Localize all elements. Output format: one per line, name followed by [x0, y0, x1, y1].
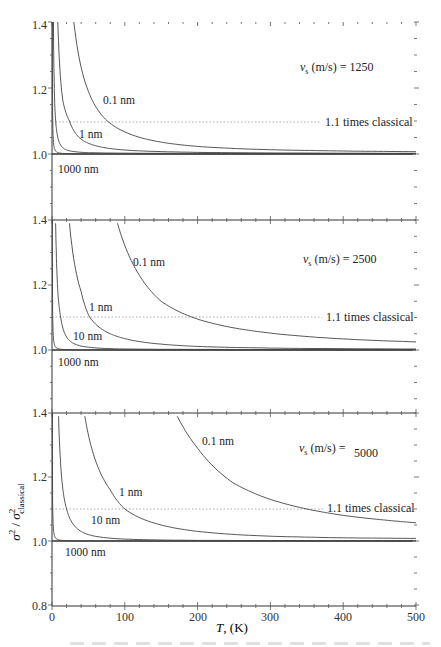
reference-label: 1.1 times classical: [327, 501, 415, 515]
velocity-annotation: vs (m/s) = 2500: [303, 252, 377, 268]
curve-label: 1000 nm: [65, 546, 106, 558]
x-tick-label: 0: [49, 610, 55, 624]
curve-01nm: [118, 223, 417, 342]
curve-label: 10 nm: [91, 514, 120, 526]
x-axis-label: T, (K): [216, 620, 248, 635]
curve-label: 1 nm: [119, 486, 142, 498]
y-tick-labels: 1.4 1.2 1.0 1.4 1.2 1.0 1.4 1.2 1.0 0.8: [32, 18, 47, 613]
x-tick-label: 200: [189, 610, 207, 624]
y-tick-label: 1.0: [32, 535, 47, 549]
y-tick-label: 1.2: [32, 470, 47, 484]
curve-label: 1 nm: [79, 128, 102, 140]
curve-label: 1000 nm: [58, 356, 99, 368]
x-tick-label: 300: [261, 610, 279, 624]
y-tick-label: 1.4: [32, 18, 47, 32]
curve-labels: 0.1 nm 1 nm 1000 nm 0.1 nm 1 nm 10 nm 10…: [58, 94, 234, 558]
curve-1000nm: [52, 22, 416, 154]
velocity-annotation: vs (m/s) =: [299, 441, 346, 457]
chart: 1.4 1.2 1.0 1.4 1.2 1.0 1.4 1.2 1.0 0.8 …: [0, 0, 441, 647]
curve-10nm: [56, 223, 416, 349]
curve-label: 0.1 nm: [133, 256, 165, 268]
y-tick-label: 1.4: [32, 406, 47, 420]
curve-1nm: [58, 22, 416, 153]
velocity-annotation: vs (m/s) = 1250: [300, 60, 374, 76]
y-tick-label: 1.2: [32, 83, 47, 97]
curve-1000nm: [52, 220, 416, 350]
reference-label: 1.1 times classical: [326, 310, 414, 324]
y-tick-label: 1.0: [32, 148, 47, 162]
y-tick-label: 1.0: [32, 343, 47, 357]
curve-label: 10 nm: [73, 330, 102, 342]
cropped-caption: [70, 636, 430, 647]
y-tick-label: 1.2: [32, 278, 47, 292]
curve-label: 1000 nm: [58, 163, 99, 175]
y-axis-label: σ2 / σ2classical: [7, 483, 26, 541]
curve-10nm: [54, 22, 417, 154]
x-tick-label: 500: [407, 610, 425, 624]
reference-label: 1.1 times classical: [325, 115, 413, 129]
curve-1nm: [85, 416, 416, 538]
x-tick-label: 100: [116, 610, 134, 624]
velocity-annotation-value: 5000: [354, 446, 378, 460]
curve-1nm: [70, 223, 417, 349]
y-tick-label: 1.4: [32, 213, 47, 227]
y-tick-label: 0.8: [32, 599, 47, 613]
curve-label: 1 nm: [89, 301, 112, 313]
curve-label: 0.1 nm: [103, 94, 135, 106]
curve-01nm: [74, 22, 416, 152]
x-tick-label: 400: [334, 610, 352, 624]
curve-label: 0.1 nm: [202, 435, 234, 447]
